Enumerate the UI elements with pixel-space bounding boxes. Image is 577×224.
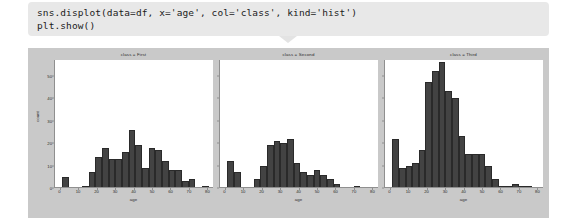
x-tick-label: 80 bbox=[535, 189, 540, 194]
code-line-2: plt.show() bbox=[37, 19, 540, 32]
histogram-bar bbox=[300, 172, 307, 188]
y-tick-mark bbox=[217, 143, 219, 144]
histogram-bar bbox=[287, 139, 294, 188]
histogram-bar bbox=[399, 168, 406, 188]
x-tick-label: 50 bbox=[150, 189, 155, 194]
bars-group bbox=[385, 60, 543, 188]
histogram-bar bbox=[109, 159, 116, 188]
x-tick-label: 80 bbox=[370, 189, 375, 194]
x-axis-label: age bbox=[219, 197, 378, 202]
histogram-bar bbox=[129, 130, 136, 188]
histogram-bar bbox=[452, 98, 459, 188]
histogram-panel-2: class = Second01020304050607080age bbox=[219, 48, 378, 218]
y-tick-label: 0 bbox=[50, 186, 52, 191]
plot-area bbox=[54, 60, 213, 188]
code-line-1: sns.displot(data=df, x='age', col='class… bbox=[37, 6, 540, 19]
histogram-bar bbox=[485, 166, 492, 188]
notebook-output-screenshot: sns.displot(data=df, x='age', col='class… bbox=[0, 0, 577, 224]
histogram-bar bbox=[472, 154, 479, 188]
x-axis-label: age bbox=[384, 197, 543, 202]
histogram-bar bbox=[227, 161, 234, 188]
x-tick-label: 40 bbox=[131, 189, 136, 194]
histogram-bar bbox=[445, 91, 452, 188]
histogram-bar bbox=[115, 159, 122, 188]
histogram-bar bbox=[465, 154, 472, 188]
histogram-panel-1: class = First01020304050count01020304050… bbox=[54, 48, 213, 218]
figure-output: class = First01020304050count01020304050… bbox=[28, 48, 549, 218]
x-tick-label: 20 bbox=[424, 189, 429, 194]
histogram-bar bbox=[307, 175, 314, 188]
panel-title: class = Third bbox=[384, 52, 543, 57]
y-axis bbox=[219, 60, 220, 188]
panel-title: class = Second bbox=[219, 52, 378, 57]
histogram-bar bbox=[267, 145, 274, 188]
histogram-bar bbox=[406, 166, 413, 188]
x-tick-label: 70 bbox=[517, 189, 522, 194]
code-cell[interactable]: sns.displot(data=df, x='age', col='class… bbox=[28, 2, 549, 36]
x-tick-label: 20 bbox=[94, 189, 99, 194]
y-axis-label: count bbox=[35, 111, 40, 122]
histogram-bar bbox=[122, 152, 129, 188]
y-tick-label: 20 bbox=[47, 141, 52, 146]
x-tick-label: 0 bbox=[58, 189, 60, 194]
x-tick-label: 30 bbox=[113, 189, 118, 194]
histogram-bar bbox=[142, 168, 149, 188]
histogram-bar bbox=[135, 145, 142, 188]
y-tick-mark bbox=[382, 98, 384, 99]
x-tick-label: 30 bbox=[278, 189, 283, 194]
histogram-bar bbox=[155, 150, 162, 188]
histogram-bar bbox=[320, 175, 327, 188]
histogram-bar bbox=[432, 71, 439, 188]
histogram-bar bbox=[89, 172, 96, 188]
histogram-bar bbox=[459, 136, 466, 188]
cell-connector-triangle bbox=[279, 36, 297, 43]
x-tick-label: 60 bbox=[498, 189, 503, 194]
x-tick-label: 60 bbox=[333, 189, 338, 194]
histogram-bar bbox=[419, 150, 426, 188]
figure-canvas: class = First01020304050count01020304050… bbox=[28, 48, 549, 218]
x-tick-label: 70 bbox=[352, 189, 357, 194]
panel-title: class = First bbox=[54, 52, 213, 57]
histogram-bar bbox=[314, 170, 321, 188]
histogram-bar bbox=[169, 170, 176, 188]
y-tick-mark bbox=[217, 98, 219, 99]
histogram-bar bbox=[439, 62, 446, 188]
x-tick-label: 80 bbox=[205, 189, 210, 194]
x-tick-label: 20 bbox=[259, 189, 264, 194]
histogram-bar bbox=[162, 161, 169, 188]
y-tick-label: 30 bbox=[47, 118, 52, 123]
histogram-bar bbox=[479, 154, 486, 188]
y-axis bbox=[384, 60, 385, 188]
plot-area bbox=[219, 60, 378, 188]
x-axis-label: age bbox=[54, 197, 213, 202]
x-tick-label: 30 bbox=[443, 189, 448, 194]
x-tick-label: 0 bbox=[388, 189, 390, 194]
x-tick-label: 10 bbox=[76, 189, 81, 194]
histogram-bar bbox=[274, 141, 281, 188]
y-tick-mark bbox=[382, 165, 384, 166]
histogram-bar bbox=[260, 166, 267, 188]
histogram-bar bbox=[294, 163, 301, 188]
y-tick-mark bbox=[382, 75, 384, 76]
histogram-panel-3: class = Third01020304050607080age bbox=[384, 48, 543, 218]
y-tick-mark bbox=[382, 120, 384, 121]
histogram-bar bbox=[102, 148, 109, 188]
x-tick-label: 70 bbox=[187, 189, 192, 194]
histogram-bar bbox=[425, 82, 432, 188]
histogram-bar bbox=[392, 139, 399, 188]
y-tick-mark bbox=[382, 143, 384, 144]
y-tick-mark bbox=[217, 120, 219, 121]
x-tick-label: 40 bbox=[461, 189, 466, 194]
histogram-bar bbox=[280, 143, 287, 188]
bars-group bbox=[55, 60, 213, 188]
x-tick-label: 0 bbox=[223, 189, 225, 194]
plot-area bbox=[384, 60, 543, 188]
histogram-bar bbox=[234, 172, 241, 188]
histogram-bar bbox=[95, 157, 102, 188]
y-tick-mark bbox=[217, 75, 219, 76]
histogram-bar bbox=[175, 170, 182, 188]
bars-group bbox=[220, 60, 378, 188]
x-tick-label: 10 bbox=[241, 189, 246, 194]
histogram-bar bbox=[412, 163, 419, 188]
y-tick-label: 10 bbox=[47, 163, 52, 168]
